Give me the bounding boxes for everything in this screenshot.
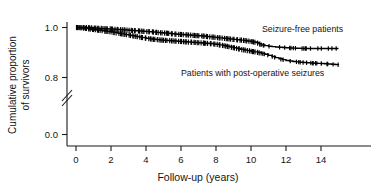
y-axis-title: Cumulative proportion of survivors — [7, 36, 31, 134]
x-tick-marks — [76, 146, 321, 151]
x-tick-label-14: 14 — [316, 154, 327, 165]
survival-chart-figure: 1.0 0.8 0.0 0 2 4 6 8 10 12 14 Follow-up… — [0, 0, 379, 191]
y-tick-marks — [62, 28, 67, 135]
kaplan-meier-plot: 1.0 0.8 0.0 0 2 4 6 8 10 12 14 Follow-up… — [0, 0, 379, 191]
y-axis-title-line1: Cumulative proportion — [7, 36, 18, 134]
y-tick-labels: 1.0 0.8 0.0 — [45, 22, 58, 140]
x-axis-title: Follow-up (years) — [157, 171, 238, 183]
x-tick-label-4: 4 — [143, 154, 148, 165]
annotation-seizure-free: Seizure-free patients — [262, 24, 344, 34]
x-tick-label-8: 8 — [213, 154, 218, 165]
x-tick-label-6: 6 — [178, 154, 183, 165]
axes-group — [62, 22, 371, 151]
y-axis-title-line2: of survivors — [20, 59, 31, 110]
x-tick-labels: 0 2 4 6 8 10 12 14 — [73, 154, 326, 165]
y-tick-label-2: 0.8 — [45, 72, 58, 83]
y-tick-label-3: 0.0 — [45, 129, 58, 140]
x-tick-label-12: 12 — [281, 154, 292, 165]
annotation-post-operative-seizures: Patients with post-operative seizures — [181, 68, 325, 78]
y-tick-label-1: 1.0 — [45, 22, 58, 33]
x-tick-label-10: 10 — [246, 154, 257, 165]
x-tick-label-0: 0 — [73, 154, 78, 165]
x-tick-label-2: 2 — [108, 154, 113, 165]
